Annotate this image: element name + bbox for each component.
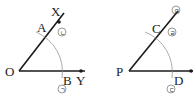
point-X — [57, 20, 61, 24]
mark-near-A: ㄴ — [60, 29, 66, 36]
mark-top: ㅁ — [174, 7, 180, 14]
label-A: A — [37, 20, 47, 35]
label-Y: Y — [76, 73, 86, 88]
label-P: P — [116, 64, 123, 79]
mark-below-B: ㄱ — [60, 86, 66, 93]
left-figure: O X A B Y ㄴ ㄱ — [5, 4, 86, 93]
ray-PC — [129, 11, 178, 71]
right-figure: P C D ㅁ ㄹ ㄷ — [116, 6, 193, 93]
point-Q — [189, 69, 193, 73]
mark-near-C: ㄹ — [170, 29, 176, 36]
angle-construction-diagram: O X A B Y ㄴ ㄱ P C D ㅁ ㄹ ㄷ — [0, 0, 193, 99]
label-C: C — [152, 21, 161, 36]
label-X: X — [51, 4, 61, 19]
label-O: O — [5, 64, 14, 79]
label-D: D — [174, 73, 183, 88]
mark-below-D: ㄷ — [169, 86, 175, 93]
